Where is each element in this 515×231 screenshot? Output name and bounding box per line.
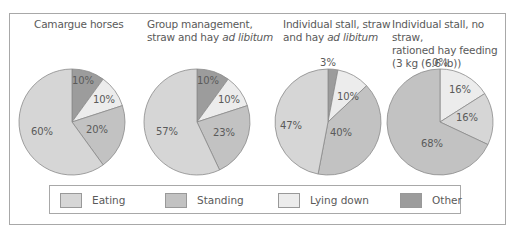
slice-label: 16% (449, 84, 471, 95)
legend-label: Eating (92, 194, 125, 206)
slice-label: 40% (330, 127, 352, 138)
pie-3: 3%10%40%47% (275, 57, 381, 175)
pie-1: 10%10%20%60% (19, 69, 125, 175)
slice-label: 10% (218, 94, 240, 105)
slice-label: 23% (213, 127, 235, 138)
slice-label: 10% (93, 94, 115, 105)
slice-label: 0% (432, 57, 448, 68)
slice-label: 47% (280, 120, 302, 131)
eating-swatch (60, 193, 82, 208)
slice-label: 10% (337, 91, 359, 102)
standing-swatch (165, 193, 187, 208)
legend-label: Lying down (310, 194, 369, 206)
slice-label: 10% (197, 75, 219, 86)
pie-2: 10%10%23%57% (144, 69, 250, 175)
pie-4: 0%16%16%68% (387, 57, 493, 175)
legend: Eating Standing Lying down Other (49, 185, 461, 214)
legend-item-eating: Eating (60, 192, 125, 208)
lying-down-swatch (278, 193, 300, 208)
slice-label: 57% (156, 126, 178, 137)
slice-label: 20% (86, 124, 108, 135)
slice-label: 3% (320, 57, 336, 68)
other-swatch (400, 193, 422, 208)
legend-item-standing: Standing (165, 192, 244, 208)
slice-label: 16% (456, 112, 478, 123)
slice-label: 68% (421, 138, 443, 149)
legend-item-other: Other (400, 192, 462, 208)
slice-label: 60% (31, 126, 53, 137)
legend-label: Standing (197, 194, 244, 206)
legend-label: Other (432, 194, 462, 206)
legend-item-lying-down: Lying down (278, 192, 369, 208)
slice-label: 10% (72, 75, 94, 86)
